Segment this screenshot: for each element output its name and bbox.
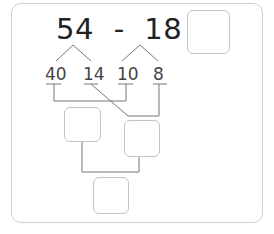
- final-answer-box[interactable]: [93, 177, 129, 214]
- step1-answer-box[interactable]: [64, 107, 101, 142]
- step2-answer-box[interactable]: [124, 120, 160, 157]
- connector-lines: [0, 0, 274, 234]
- branch-54: [56, 45, 91, 61]
- branch-18: [122, 45, 158, 61]
